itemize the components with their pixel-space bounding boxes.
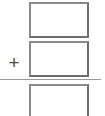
addend-2-input-box[interactable] bbox=[29, 41, 89, 77]
vertical-addition-worksheet: + bbox=[0, 0, 105, 116]
plus-operator-icon: + bbox=[6, 55, 22, 71]
sum-divider-line bbox=[0, 79, 101, 80]
addend-1-value bbox=[31, 4, 87, 36]
addend-1-input-box[interactable] bbox=[29, 2, 89, 38]
addend-2-value bbox=[31, 43, 87, 75]
sum-value bbox=[31, 86, 87, 116]
sum-input-box[interactable] bbox=[29, 84, 89, 116]
